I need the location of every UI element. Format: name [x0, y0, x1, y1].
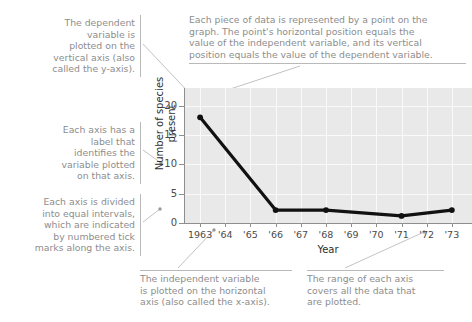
annotation-rule-intervals: [140, 194, 141, 256]
annotation-rule-axis-range: [307, 270, 444, 271]
annotation-rule-independent: [140, 270, 292, 271]
data-point-marker: [449, 207, 455, 213]
data-series: [148, 84, 472, 260]
annotation-independent-variable: The independent variable is plotted on t…: [140, 273, 300, 308]
annotation-dependent-variable: The dependent variable is plotted on the…: [6, 17, 135, 75]
annotation-rule-data-point: [189, 63, 466, 64]
annotation-equal-intervals: Each axis is divided into equal interval…: [4, 196, 135, 254]
annotation-rule-axis-label: [140, 122, 141, 184]
data-point-marker: [273, 207, 279, 213]
annotation-axis-label: Each axis has a label that identifies th…: [6, 124, 135, 182]
annotation-axis-range: The range of each axis covers all the da…: [307, 273, 457, 308]
annotation-data-point: Each piece of data is represented by a p…: [189, 14, 467, 60]
chart-figure: 05101520 1963'64'65'66'67'68'69'70'71'72…: [148, 84, 472, 260]
figure-page: The dependent variable is plotted on the…: [0, 0, 472, 322]
data-point-marker: [323, 207, 329, 213]
series-line: [200, 117, 452, 216]
data-point-marker: [197, 114, 203, 120]
annotation-rule-dependent: [140, 15, 141, 77]
data-point-marker: [399, 213, 405, 219]
